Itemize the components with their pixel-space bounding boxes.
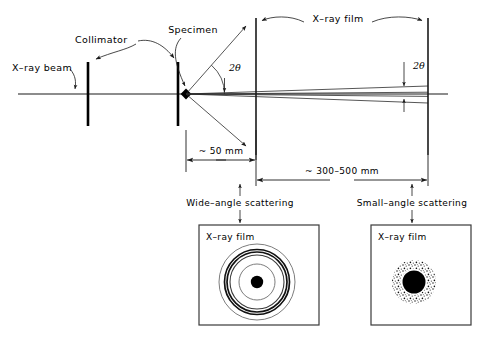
xray-beam-label-group: X–ray beam xyxy=(12,62,75,89)
xray-film-bracket-label: X–ray film xyxy=(312,13,363,24)
small-angle-film-label: X–ray film xyxy=(378,232,427,242)
specimen-label: Specimen xyxy=(168,24,218,35)
wide-angle-caption: Wide–angle scattering xyxy=(186,198,294,208)
xray-film-bracket-group: X–ray film xyxy=(262,13,422,24)
dimension-50mm-group: ~ 50 mm xyxy=(186,130,256,172)
two-theta-left-label: 2θ xyxy=(228,62,241,73)
specimen-label-group: Specimen xyxy=(168,24,218,86)
two-theta-right-label: 2θ xyxy=(412,60,425,71)
xray-beam-label: X–ray beam xyxy=(12,62,72,73)
small-angle-film-panel: X–ray film xyxy=(371,225,471,325)
wide-angle-callout-group: Wide–angle scattering xyxy=(186,184,294,223)
dimension-50mm-label: ~ 50 mm xyxy=(199,146,244,156)
small-angle-caption: Small–angle scattering xyxy=(357,198,467,208)
wide-angle-beam-stop-dot xyxy=(251,276,263,288)
bracket-arrow-right xyxy=(372,17,422,22)
bracket-arrow-left xyxy=(262,17,304,22)
wide-angle-film-panel: X–ray film xyxy=(199,225,319,325)
collimator-leader-left xyxy=(96,44,136,59)
wide-angle-rays-group xyxy=(186,26,246,146)
dimension-long-label: ~ 300–500 mm xyxy=(305,166,379,176)
dimension-300-500mm-group: ~ 300–500 mm xyxy=(256,155,428,186)
collimator-label-group: Collimator xyxy=(75,34,174,59)
xray-scattering-figure: X–ray film X–ray beam Collimator Specime… xyxy=(0,0,499,344)
two-theta-arc-left xyxy=(211,65,224,94)
scattered-ray-up xyxy=(186,26,246,94)
scattered-ray-down xyxy=(186,94,246,146)
collimator-leader-right xyxy=(138,40,174,58)
collimator-label: Collimator xyxy=(75,34,127,45)
wide-angle-film-label: X–ray film xyxy=(206,232,255,242)
diagram-canvas: X–ray film X–ray beam Collimator Specime… xyxy=(0,0,499,344)
small-angle-callout-group: Small–angle scattering xyxy=(357,184,467,223)
small-angle-beam-stop-dot xyxy=(403,271,426,294)
wide-angle-diffraction-pattern xyxy=(219,244,295,320)
two-theta-left-group: 2θ xyxy=(225,62,242,92)
